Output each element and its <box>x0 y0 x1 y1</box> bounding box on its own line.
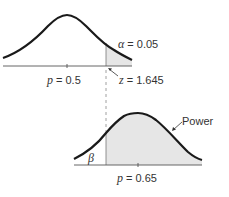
alpha-label: α= 0.05 <box>118 37 158 51</box>
power-label: Power <box>182 115 214 127</box>
power-arrow <box>172 122 182 131</box>
critical-z-label: z= 1.645 <box>118 73 164 87</box>
null-distribution <box>3 15 132 68</box>
alt-mean-label: p= 0.65 <box>116 171 157 185</box>
power-diagram: α= 0.05 p= 0.5 z= 1.645 Power β p= 0.65 <box>0 0 229 197</box>
beta-label: β <box>87 151 94 165</box>
z-arrow <box>108 68 118 76</box>
null-mean-label: p= 0.5 <box>46 73 81 87</box>
